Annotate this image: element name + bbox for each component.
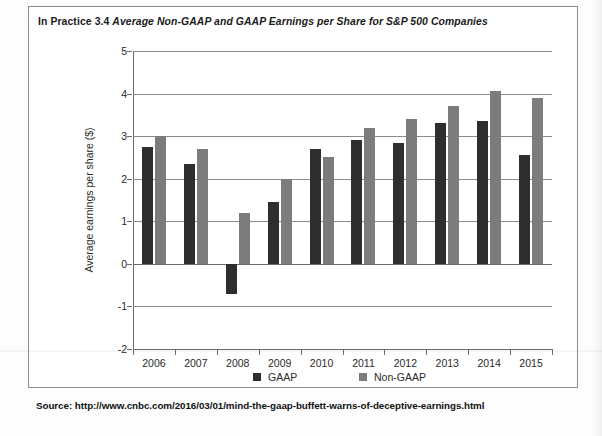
y-tick-mark	[127, 51, 132, 52]
y-tick-label: 0	[101, 258, 127, 270]
y-tick-mark	[127, 221, 132, 222]
bar-group	[426, 51, 468, 349]
bar-gaap-2006	[142, 147, 153, 264]
bar-group	[301, 51, 343, 349]
x-axis: 2006200720082009201020112012201320142015	[133, 349, 552, 373]
bar-non-gaap-2008	[239, 213, 250, 264]
bar-group	[510, 51, 552, 349]
scanned-page: In Practice 3.4 Average Non-GAAP and GAA…	[0, 0, 602, 436]
x-tick-label-2008: 2008	[216, 357, 260, 369]
bar-gaap-2013	[435, 123, 446, 263]
bar-group	[217, 51, 259, 349]
bar-gaap-2014	[477, 121, 488, 264]
x-tick-mark	[343, 349, 344, 355]
x-tick-mark	[510, 349, 511, 355]
x-tick-mark	[259, 349, 260, 355]
figure-box: In Practice 3.4 Average Non-GAAP and GAA…	[28, 6, 578, 388]
y-tick-label: -2	[101, 343, 127, 355]
legend-swatch-gaap-icon	[253, 373, 261, 381]
bar-non-gaap-2015	[532, 98, 543, 264]
scan-edge-shadow	[592, 0, 602, 436]
source-citation: Source: http://www.cnbc.com/2016/03/01/m…	[36, 400, 484, 411]
x-tick-label-2015: 2015	[509, 357, 553, 369]
bar-group	[343, 51, 385, 349]
x-tick-label-2011: 2011	[341, 357, 385, 369]
figure-caption: In Practice 3.4 Average Non-GAAP and GAA…	[38, 15, 573, 28]
x-tick-label-2009: 2009	[258, 357, 302, 369]
y-tick-label: 2	[101, 173, 127, 185]
y-tick-label: 4	[101, 88, 127, 100]
bar-non-gaap-2006	[155, 136, 166, 264]
bar-non-gaap-2012	[406, 119, 417, 264]
bar-gaap-2010	[310, 149, 321, 264]
y-axis-title: Average earnings per share ($)	[81, 51, 97, 349]
legend-swatch-non-gaap-icon	[359, 373, 367, 381]
y-axis-ticks: 543210-1-2	[99, 51, 127, 349]
x-tick-mark	[301, 349, 302, 355]
bar-non-gaap-2010	[323, 157, 334, 263]
chart-legend: GAAPNon-GAAP	[133, 371, 552, 387]
bar-non-gaap-2013	[448, 106, 459, 264]
x-tick-label-2014: 2014	[467, 357, 511, 369]
legend-entry-non-gaap[interactable]: Non-GAAP	[359, 371, 426, 383]
bar-gaap-2008	[226, 264, 237, 294]
bar-gaap-2015	[519, 155, 530, 264]
bar-gaap-2007	[184, 164, 195, 264]
x-tick-mark	[552, 349, 553, 355]
y-tick-label: 5	[101, 45, 127, 57]
bar-gaap-2009	[268, 202, 279, 264]
y-tick-mark	[127, 136, 132, 137]
bar-gaap-2012	[393, 143, 404, 264]
bar-group	[259, 51, 301, 349]
y-tick-label: -1	[101, 300, 127, 312]
bar-group	[133, 51, 175, 349]
y-tick-mark	[127, 179, 132, 180]
y-tick-label: 1	[101, 215, 127, 227]
x-tick-mark	[133, 349, 134, 355]
x-tick-label-2006: 2006	[132, 357, 176, 369]
y-axis-title-text: Average earnings per share ($)	[83, 127, 95, 272]
plot-area	[133, 51, 552, 349]
bar-group	[468, 51, 510, 349]
caption-label: In Practice 3.4	[38, 16, 109, 27]
legend-label: GAAP	[268, 371, 297, 383]
y-tick-mark	[127, 306, 132, 307]
x-tick-label-2013: 2013	[425, 357, 469, 369]
x-tick-label-2010: 2010	[300, 357, 344, 369]
legend-entry-gaap[interactable]: GAAP	[253, 371, 297, 383]
legend-label: Non-GAAP	[374, 371, 426, 383]
x-tick-label-2007: 2007	[174, 357, 218, 369]
x-tick-mark	[426, 349, 427, 355]
x-tick-mark	[468, 349, 469, 355]
x-tick-label-2012: 2012	[383, 357, 427, 369]
bar-non-gaap-2014	[490, 91, 501, 263]
caption-title: Average Non-GAAP and GAAP Earnings per S…	[112, 16, 488, 27]
y-tick-mark	[127, 94, 132, 95]
bar-non-gaap-2009	[281, 179, 292, 264]
bar-group	[175, 51, 217, 349]
bar-group	[384, 51, 426, 349]
x-tick-mark	[217, 349, 218, 355]
x-tick-mark	[175, 349, 176, 355]
y-tick-mark	[127, 349, 132, 350]
bar-gaap-2011	[351, 140, 362, 263]
bar-non-gaap-2011	[364, 128, 375, 264]
bar-non-gaap-2007	[197, 149, 208, 264]
x-tick-mark	[384, 349, 385, 355]
y-tick-mark	[127, 264, 132, 265]
y-tick-label: 3	[101, 130, 127, 142]
